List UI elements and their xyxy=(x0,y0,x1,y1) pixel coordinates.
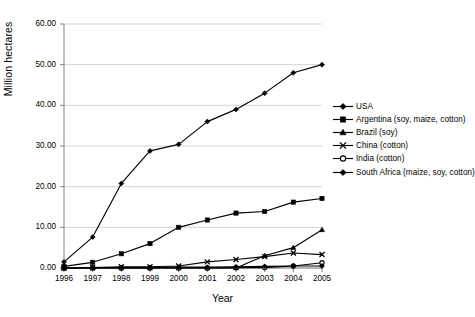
chart-legend: USAArgentina (soy, maize, cotton)Brazil … xyxy=(332,100,475,179)
data-point-square xyxy=(291,200,295,204)
legend-label: USA xyxy=(354,102,373,111)
data-point-square xyxy=(263,209,267,213)
x-tick-label: 2005 xyxy=(302,274,342,283)
legend-item[interactable]: South Africa (maize, soy, cotton) xyxy=(332,165,475,178)
series-usa xyxy=(62,62,325,264)
legend-marker-filled-diamond-icon xyxy=(332,166,354,179)
data-point-triangle xyxy=(320,227,325,232)
legend-item[interactable]: USA xyxy=(332,100,475,113)
data-point-square xyxy=(91,260,95,264)
legend-label: India (cotton) xyxy=(354,154,405,163)
data-point-diamond xyxy=(234,107,239,112)
legend-marker-open-circle-icon xyxy=(332,152,354,165)
series-line xyxy=(64,198,322,266)
data-point-open-circle xyxy=(340,156,345,161)
legend-label: Argentina (soy, maize, cotton) xyxy=(354,115,466,124)
data-point-square xyxy=(234,211,238,215)
data-point-filled-diamond xyxy=(340,169,346,175)
data-point-square xyxy=(177,225,181,229)
data-point-square xyxy=(148,241,152,245)
data-point-diamond xyxy=(320,62,325,67)
legend-marker-square-icon xyxy=(332,113,354,126)
y-tick-label: 30.00 xyxy=(14,141,56,150)
legend-item[interactable]: India (cotton) xyxy=(332,152,475,165)
legend-marker-triangle-icon xyxy=(332,126,354,139)
data-point-square xyxy=(320,196,324,200)
legend-marker-diamond-icon xyxy=(332,100,354,113)
y-tick-label: 60.00 xyxy=(14,19,56,28)
series-india xyxy=(62,261,324,271)
legend-label: Brazil (soy) xyxy=(354,128,398,137)
y-tick-label: 20.00 xyxy=(14,182,56,191)
series-line xyxy=(64,65,322,262)
data-point-square xyxy=(340,117,345,122)
legend-item[interactable]: China (cotton) xyxy=(332,139,475,152)
y-tick-label: 40.00 xyxy=(14,100,56,109)
legend-marker-cross-icon xyxy=(332,139,354,152)
data-point-diamond xyxy=(340,103,346,109)
data-point-square xyxy=(119,252,123,256)
series-line xyxy=(64,230,322,268)
y-tick-label: 0.00 xyxy=(14,263,56,272)
data-point-square xyxy=(205,218,209,222)
legend-item[interactable]: Argentina (soy, maize, cotton) xyxy=(332,113,475,126)
series-argentina xyxy=(62,196,324,268)
data-point-triangle xyxy=(291,245,296,250)
y-tick-label: 50.00 xyxy=(14,60,56,69)
y-tick-label: 10.00 xyxy=(14,222,56,231)
legend-item[interactable]: Brazil (soy) xyxy=(332,126,475,139)
figure-caption-cropped xyxy=(10,306,350,316)
legend-label: South Africa (maize, soy, cotton) xyxy=(354,168,475,177)
legend-label: China (cotton) xyxy=(354,141,408,150)
